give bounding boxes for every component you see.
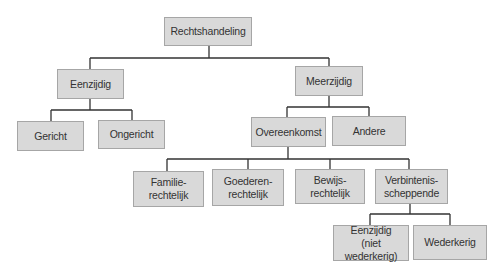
node-label: Gericht — [34, 130, 66, 143]
node-label: Ongericht — [110, 128, 154, 141]
node-label: Andere — [353, 125, 386, 138]
node-wederkerig: Wederkerig — [413, 225, 487, 260]
node-label: Eenzijdig (niet wederkerig) — [334, 224, 408, 263]
node-label: Eenzijdig — [70, 78, 111, 91]
node-gericht: Gericht — [17, 121, 84, 151]
node-label: Bewijs- rechtelijk — [310, 174, 349, 200]
node-overeenkomst: Overeenkomst — [251, 117, 326, 147]
node-label: Verbintenis- scheppende — [384, 174, 439, 200]
node-rechtshandeling: Rechtshandeling — [164, 17, 252, 46]
node-andere: Andere — [332, 116, 406, 146]
node-label: Rechtshandeling — [170, 25, 245, 38]
node-bewijsrechtelijk: Bewijs- rechtelijk — [295, 169, 365, 204]
node-label: Goederen- rechtelijk — [224, 175, 272, 201]
node-verbintenisscheppende: Verbintenis- scheppende — [375, 169, 448, 204]
node-ongericht: Ongericht — [98, 120, 165, 149]
node-eenzijdig-niet-wederkerig: Eenzijdig (niet wederkerig) — [333, 225, 409, 261]
node-label: Meerzijdig — [306, 75, 352, 88]
node-label: Overeenkomst — [256, 126, 322, 139]
node-label: Wederkerig — [424, 236, 476, 249]
node-familierechtelijk: Familie- rechtelijk — [133, 171, 204, 207]
legal-act-tree-diagram: Rechtshandeling Eenzijdig Meerzijdig Ger… — [0, 0, 504, 278]
node-goederenrechtelijk: Goederen- rechtelijk — [212, 169, 284, 206]
node-label: Familie- rechtelijk — [149, 176, 188, 202]
node-eenzijdig: Eenzijdig — [57, 69, 124, 99]
node-meerzijdig: Meerzijdig — [295, 66, 363, 96]
